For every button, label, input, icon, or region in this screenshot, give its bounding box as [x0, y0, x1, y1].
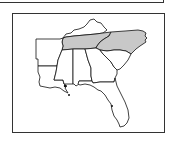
state-florida — [78, 78, 129, 127]
southeast-us-map — [0, 0, 175, 141]
coast-mark-louisiana — [68, 94, 70, 96]
coast-mark-mississippi-delta — [64, 85, 66, 87]
coast-mark-tampa-bay — [111, 105, 113, 107]
